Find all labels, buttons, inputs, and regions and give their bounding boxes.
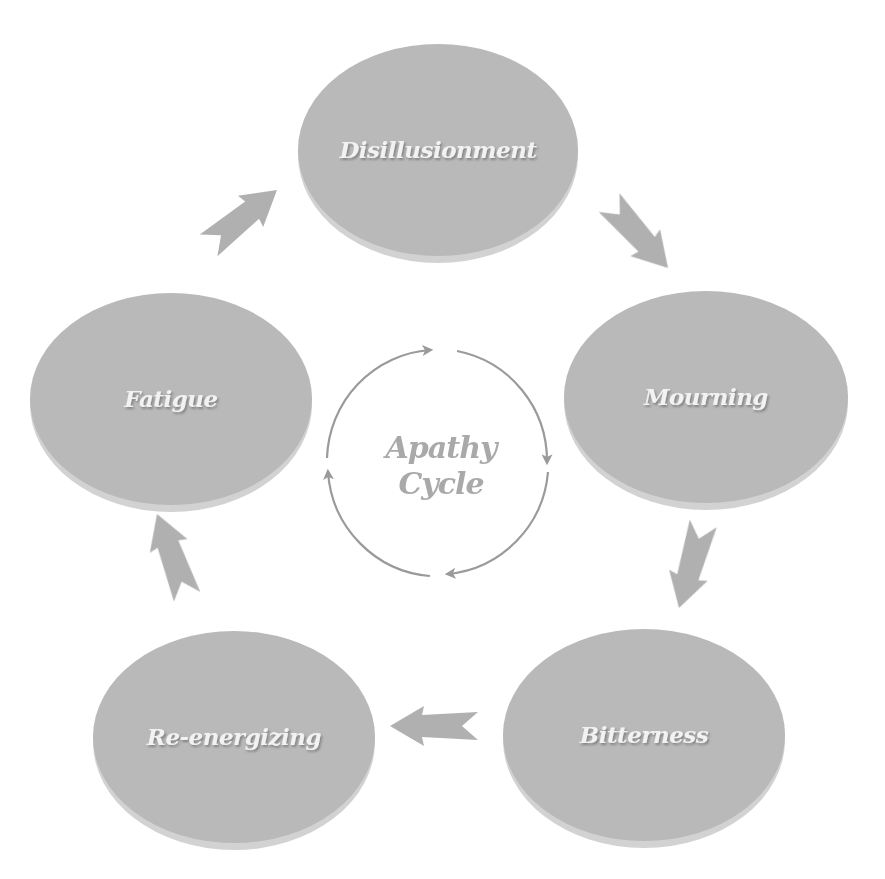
center-title-line2: Cycle <box>398 466 483 501</box>
node-re-energizing: Re-energizing <box>93 631 375 850</box>
node-mourning-label: Mourning <box>643 383 768 410</box>
arrow-disillusionment-to-mourning-icon <box>594 189 683 281</box>
node-bitterness-label: Bitterness <box>579 721 709 748</box>
node-mourning: Mourning <box>564 291 848 510</box>
center-title-line1: Apathy <box>383 430 500 465</box>
arrow-bitterness-to-re-energizing-icon <box>390 706 478 746</box>
node-disillusionment: Disillusionment <box>298 44 578 263</box>
node-re-energizing-label: Re-energizing <box>146 723 322 750</box>
node-disillusionment-label: Disillusionment <box>338 136 537 163</box>
arrow-mourning-to-bitterness-icon <box>660 518 723 614</box>
node-fatigue-label: Fatigue <box>123 385 217 412</box>
center-title: Apathy Cycle <box>383 430 500 501</box>
apathy-cycle-diagram: Disillusionment Mourning Bitterness Re-e… <box>0 0 885 879</box>
node-fatigue: Fatigue <box>30 293 312 512</box>
arrow-re-energizing-to-fatigue-icon <box>138 507 206 603</box>
arrow-fatigue-to-disillusionment-icon <box>196 174 290 260</box>
node-bitterness: Bitterness <box>503 629 785 848</box>
